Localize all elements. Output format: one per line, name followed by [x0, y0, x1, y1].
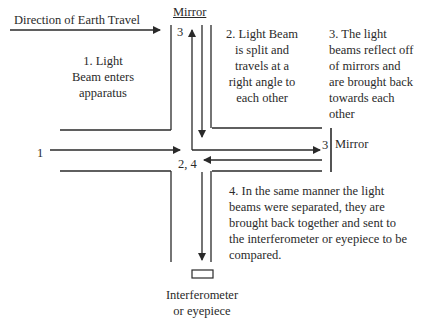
step3-text: 3. The light beams reflect off of mirror…: [329, 26, 413, 122]
entry-marker: 1: [37, 146, 43, 160]
step4-text: 4. In the same manner the light beams we…: [229, 183, 407, 263]
eyepiece-label: Interferometer or eyepiece: [152, 287, 252, 319]
step1-text: 1. Light Beam enters apparatus: [55, 53, 151, 101]
earth-travel-label: Direction of Earth Travel: [14, 12, 140, 28]
eyepiece-box: [192, 270, 213, 278]
step2-text: 2. Light Beam is split and travels at a …: [218, 26, 306, 106]
right-mirror-marker: 3: [322, 138, 328, 152]
splitter-marker: 2, 4: [178, 157, 197, 171]
right-mirror-label: Mirror: [335, 136, 368, 152]
top-mirror-marker: 3: [177, 25, 183, 39]
top-mirror-label: Mirror: [173, 4, 206, 20]
